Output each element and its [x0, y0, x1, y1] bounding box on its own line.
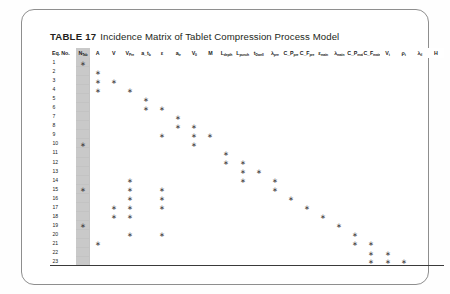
matrix-cell — [299, 220, 315, 229]
matrix-cell — [299, 193, 315, 202]
matrix-cell — [396, 211, 412, 220]
matrix-cell — [218, 85, 234, 94]
matrix-cell — [251, 148, 267, 157]
matrix-cell — [235, 247, 251, 256]
matrix-cell — [299, 175, 315, 184]
matrix-cell — [90, 166, 106, 175]
matrix-cell — [186, 193, 202, 202]
matrix-cell — [396, 121, 412, 130]
matrix-cell — [396, 229, 412, 238]
header-subscript: pre — [293, 53, 298, 57]
matrix-cell — [363, 166, 379, 175]
matrix-cell — [90, 257, 106, 266]
header-col-12: λpre — [267, 48, 283, 58]
table-row: 6∗∗ — [50, 103, 444, 112]
matrix-cell — [186, 112, 202, 121]
matrix-cell — [331, 157, 347, 166]
incidence-marker-icon: ∗ — [90, 241, 106, 246]
matrix-cell — [90, 193, 106, 202]
matrix-cell — [283, 58, 299, 67]
matrix-cell — [267, 166, 283, 175]
matrix-cell — [331, 94, 347, 103]
table-row: 18∗∗∗ — [50, 211, 444, 220]
matrix-cell — [235, 67, 251, 76]
matrix-cell — [251, 247, 267, 256]
matrix-cell — [122, 238, 138, 247]
matrix-cell — [267, 229, 283, 238]
matrix-cell — [412, 184, 428, 193]
matrix-cell — [76, 76, 89, 85]
matrix-cell — [380, 238, 396, 247]
matrix-cell — [138, 166, 154, 175]
matrix-cell: ∗ — [154, 229, 170, 238]
matrix-cell — [412, 76, 428, 85]
matrix-cell — [380, 67, 396, 76]
matrix-cell — [331, 184, 347, 193]
incidence-matrix-table: Eq. No. NTabAVVPrea_tbεatrV0MLdepthLpunc… — [50, 48, 444, 266]
matrix-cell — [202, 58, 218, 67]
matrix-cell — [331, 202, 347, 211]
header-col-4: a_tb — [138, 48, 154, 58]
matrix-cell — [218, 211, 234, 220]
header-col-0: NTab — [76, 48, 89, 58]
matrix-cell: ∗ — [218, 148, 234, 157]
matrix-cell — [347, 130, 363, 139]
matrix-cell — [138, 175, 154, 184]
matrix-cell — [90, 130, 106, 139]
table-row: 10∗∗ — [50, 139, 444, 148]
matrix-cell — [267, 211, 283, 220]
matrix-cell — [154, 85, 170, 94]
matrix-cell — [315, 94, 331, 103]
matrix-cell — [170, 184, 186, 193]
matrix-cell — [347, 139, 363, 148]
matrix-cell — [267, 139, 283, 148]
matrix-cell: ∗ — [380, 257, 396, 266]
matrix-cell — [218, 229, 234, 238]
matrix-cell — [122, 94, 138, 103]
incidence-marker-icon: ∗ — [218, 151, 234, 156]
matrix-cell — [315, 148, 331, 157]
matrix-cell — [154, 67, 170, 76]
row-eq-number: 8 — [50, 121, 76, 130]
matrix-cell — [154, 148, 170, 157]
matrix-cell — [428, 148, 444, 157]
matrix-cell — [412, 67, 428, 76]
matrix-cell — [235, 85, 251, 94]
table-row: 9∗∗∗ — [50, 130, 444, 139]
matrix-cell — [380, 130, 396, 139]
matrix-cell — [380, 229, 396, 238]
incidence-marker-icon: ∗ — [267, 187, 283, 192]
matrix-cell — [267, 58, 283, 67]
matrix-cell — [412, 85, 428, 94]
matrix-cell: ∗ — [347, 229, 363, 238]
matrix-cell — [218, 94, 234, 103]
matrix-cell — [363, 202, 379, 211]
matrix-cell — [218, 139, 234, 148]
matrix-cell — [315, 175, 331, 184]
matrix-cell — [235, 148, 251, 157]
matrix-cell — [170, 157, 186, 166]
row-eq-number: 23 — [50, 257, 76, 266]
matrix-cell — [251, 85, 267, 94]
matrix-cell — [235, 202, 251, 211]
matrix-cell — [202, 220, 218, 229]
matrix-cell — [331, 121, 347, 130]
matrix-cell — [251, 103, 267, 112]
matrix-cell: ∗ — [90, 76, 106, 85]
matrix-cell — [76, 148, 89, 157]
matrix-cell — [138, 58, 154, 67]
matrix-cell — [396, 238, 412, 247]
matrix-cell — [218, 67, 234, 76]
matrix-cell — [202, 238, 218, 247]
matrix-cell — [428, 85, 444, 94]
matrix-cell — [428, 67, 444, 76]
matrix-cell — [412, 130, 428, 139]
matrix-cell: ∗ — [122, 202, 138, 211]
matrix-cell — [106, 184, 122, 193]
incidence-marker-icon: ∗ — [106, 205, 122, 210]
matrix-cell: ∗ — [154, 184, 170, 193]
matrix-cell — [106, 193, 122, 202]
matrix-cell — [412, 157, 428, 166]
matrix-cell — [315, 112, 331, 121]
matrix-cell — [138, 220, 154, 229]
